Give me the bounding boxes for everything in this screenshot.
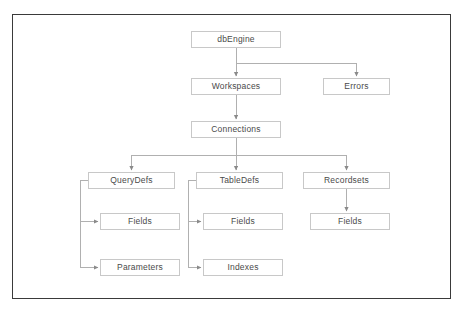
node-recordsets-fields[interactable]: Fields — [310, 213, 390, 230]
node-querydefs[interactable]: QueryDefs — [88, 172, 175, 189]
node-querydefs-fields[interactable]: Fields — [100, 213, 180, 230]
node-dbengine[interactable]: dbEngine — [191, 31, 281, 48]
node-label: QueryDefs — [110, 176, 152, 185]
node-label: Indexes — [227, 263, 258, 272]
node-label: Recordsets — [324, 176, 369, 185]
node-label: Errors — [344, 82, 368, 91]
node-label: dbEngine — [217, 35, 255, 44]
diagram-frame — [12, 14, 451, 299]
node-label: Fields — [338, 217, 362, 226]
node-label: Parameters — [117, 263, 163, 272]
node-tabledefs[interactable]: TableDefs — [196, 172, 283, 189]
node-querydefs-parameters[interactable]: Parameters — [100, 259, 180, 276]
node-tabledefs-fields[interactable]: Fields — [203, 213, 283, 230]
node-label: TableDefs — [220, 176, 260, 185]
node-recordsets[interactable]: Recordsets — [303, 172, 390, 189]
node-label: Connections — [211, 125, 260, 134]
node-workspaces[interactable]: Workspaces — [191, 78, 281, 95]
node-label: Fields — [128, 217, 152, 226]
node-errors[interactable]: Errors — [323, 78, 390, 95]
diagram-canvas: dbEngine Workspaces Errors Connections Q… — [0, 0, 465, 314]
node-label: Fields — [231, 217, 255, 226]
node-connections[interactable]: Connections — [191, 121, 281, 138]
node-tabledefs-indexes[interactable]: Indexes — [203, 259, 283, 276]
node-label: Workspaces — [212, 82, 261, 91]
